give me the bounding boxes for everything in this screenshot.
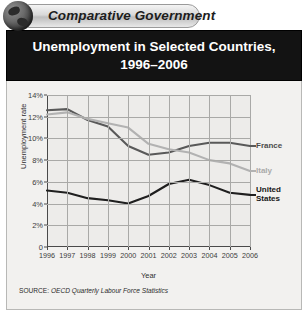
legend-label-united-states: UnitedStates <box>256 185 281 204</box>
x-tick-mark <box>230 247 231 250</box>
x-tick-label: 1997 <box>59 251 75 260</box>
y-tick-label: 2% <box>32 221 43 230</box>
y-tick-label: 6% <box>32 177 43 186</box>
y-axis-title: Unemployment rate <box>19 104 28 169</box>
x-tick-mark <box>88 247 89 250</box>
x-tick-label: 1999 <box>100 251 116 260</box>
gridline-vertical <box>209 95 210 247</box>
y-tick-mark <box>44 181 47 182</box>
x-tick-label: 2004 <box>201 251 217 260</box>
y-tick-mark <box>44 160 47 161</box>
figure-container: Comparative Government Unemployment in S… <box>0 0 308 316</box>
gridline-vertical <box>108 95 109 247</box>
x-tick-mark <box>149 247 150 250</box>
x-tick-mark <box>128 247 129 250</box>
y-tick-mark <box>44 95 47 96</box>
y-tick-mark <box>44 203 47 204</box>
x-tick-mark <box>47 247 48 250</box>
legend-connector <box>250 170 256 172</box>
x-tick-label: 2005 <box>222 251 238 260</box>
legend-label-france: France <box>256 141 282 151</box>
legend-label-italy: Italy <box>256 166 272 176</box>
banner: Comparative Government <box>0 0 308 33</box>
y-tick-label: 8% <box>32 156 43 165</box>
legend-connector <box>250 194 256 196</box>
chart-card: Unemployment rate 02%4%6%8%10%12%14%1996… <box>6 81 302 310</box>
y-tick-label: 10% <box>28 134 43 143</box>
globe-icon <box>3 1 33 31</box>
y-tick-mark <box>44 116 47 117</box>
x-axis-title: Year <box>47 271 250 280</box>
legend-label-text: States <box>256 194 281 204</box>
y-tick-label: 14% <box>28 91 43 100</box>
gridline-vertical <box>169 95 170 247</box>
x-tick-label: 1996 <box>39 251 55 260</box>
x-tick-label: 2003 <box>181 251 197 260</box>
x-tick-mark <box>169 247 170 250</box>
plot-area: 02%4%6%8%10%12%14%1996199719981999200020… <box>47 95 250 247</box>
chart-title-line-1: Unemployment in Selected Countries, <box>32 38 275 56</box>
x-tick-mark <box>108 247 109 250</box>
y-tick-label: 4% <box>32 199 43 208</box>
gridline-vertical <box>189 95 190 247</box>
chart-title-bar: Unemployment in Selected Countries, 1996… <box>6 30 302 81</box>
legend-label-text: United <box>256 185 281 195</box>
x-tick-mark <box>189 247 190 250</box>
y-tick-label: 12% <box>28 112 43 121</box>
gridline-vertical <box>149 95 150 247</box>
x-tick-mark <box>250 247 251 250</box>
x-tick-label: 2002 <box>161 251 177 260</box>
x-tick-mark <box>209 247 210 250</box>
legend-connector <box>250 145 256 147</box>
y-tick-mark <box>44 138 47 139</box>
source-text: OECD Quarterly Labour Force Statistics <box>51 287 168 294</box>
source-note: SOURCE: OECD Quarterly Labour Force Stat… <box>19 287 168 294</box>
gridline-vertical <box>230 95 231 247</box>
x-tick-label: 2001 <box>141 251 157 260</box>
x-tick-label: 2006 <box>242 251 258 260</box>
chart-title-line-2: 1996–2006 <box>120 56 188 74</box>
y-tick-mark <box>44 225 47 226</box>
source-label: SOURCE: <box>19 287 49 294</box>
x-tick-label: 1998 <box>80 251 96 260</box>
x-tick-mark <box>67 247 68 250</box>
banner-title: Comparative Government <box>48 8 215 23</box>
gridline-vertical <box>88 95 89 247</box>
gridline-vertical <box>128 95 129 247</box>
gridline-vertical <box>67 95 68 247</box>
x-tick-label: 2000 <box>120 251 136 260</box>
